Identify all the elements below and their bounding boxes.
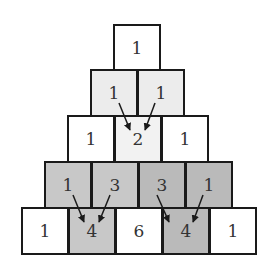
arrows-layer: [0, 0, 278, 268]
arrow: [145, 103, 155, 130]
arrow: [99, 195, 110, 222]
arrow: [193, 195, 203, 222]
arrow: [73, 195, 84, 222]
arrow: [119, 103, 130, 130]
arrow: [157, 195, 169, 222]
